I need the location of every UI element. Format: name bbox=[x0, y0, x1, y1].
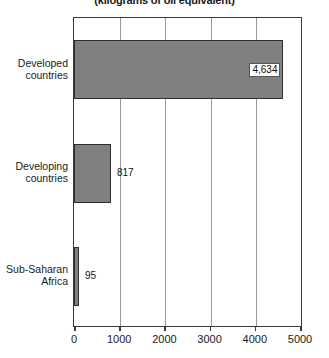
category-label-line1: Sub-Saharan bbox=[0, 263, 68, 275]
category-label: Developedcountries bbox=[0, 57, 68, 81]
category-label-line1: Developing bbox=[0, 160, 68, 172]
category-label: Developingcountries bbox=[0, 160, 68, 184]
x-tick-mark bbox=[255, 327, 257, 331]
x-tick-label: 4000 bbox=[243, 333, 267, 346]
x-tick-mark bbox=[210, 327, 212, 331]
x-tick-label: 1000 bbox=[107, 333, 131, 346]
category-axis-labels: DevelopedcountriesDevelopingcountriesSub… bbox=[0, 17, 329, 327]
chart-title: (kilograms of oil equivalent) bbox=[0, 0, 329, 6]
x-axis: 010002000300040005000 bbox=[73, 327, 302, 357]
x-tick-mark bbox=[164, 327, 166, 331]
x-tick-mark bbox=[119, 327, 121, 331]
x-tick-label: 3000 bbox=[197, 333, 221, 346]
category-label-line2: Africa bbox=[0, 275, 68, 287]
x-tick-mark bbox=[74, 327, 76, 331]
category-label: Sub-SaharanAfrica bbox=[0, 263, 68, 287]
x-tick-label: 2000 bbox=[152, 333, 176, 346]
category-label-line1: Developed bbox=[0, 57, 68, 69]
x-tick-label: 5000 bbox=[288, 333, 312, 346]
x-tick-label: 0 bbox=[71, 333, 77, 346]
x-tick-mark bbox=[300, 327, 302, 331]
category-label-line2: countries bbox=[0, 69, 68, 81]
category-label-line2: countries bbox=[0, 172, 68, 184]
